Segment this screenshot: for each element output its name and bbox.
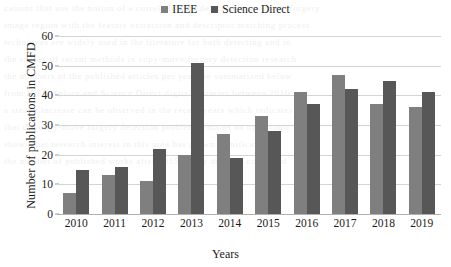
y-tick-label: 0: [24, 208, 53, 220]
square-marker-icon: [161, 6, 168, 13]
x-tick-label: 2018: [364, 217, 402, 229]
bar-science-direct: [115, 167, 128, 214]
bar-ieee: [332, 75, 345, 214]
x-tick-label: 2017: [326, 217, 364, 229]
bar-science-direct: [383, 81, 396, 215]
bar-science-direct: [422, 92, 435, 214]
bar-ieee: [255, 116, 268, 214]
legend-label-ieee: IEEE: [172, 4, 197, 16]
y-tick-label: 50: [24, 60, 53, 72]
bar-group: [95, 36, 133, 214]
x-tick-label: 2012: [134, 217, 172, 229]
gridline: [57, 214, 441, 215]
bar-science-direct: [191, 63, 204, 214]
bar-science-direct: [307, 104, 320, 214]
y-axis-ticks: 0102030405060: [24, 36, 53, 214]
x-axis-title: Years: [0, 247, 451, 262]
bar-ieee: [63, 193, 76, 214]
bar-ieee: [294, 92, 307, 214]
x-tick-label: 2011: [95, 217, 133, 229]
bar-group: [403, 36, 441, 214]
x-tick-label: 2019: [403, 217, 441, 229]
legend-item-ieee: IEEE: [161, 4, 197, 16]
bar-group: [211, 36, 249, 214]
x-tick-label: 2016: [287, 217, 325, 229]
chart-legend: IEEE Science Direct: [0, 4, 451, 16]
bar-science-direct: [76, 170, 89, 215]
bar-ieee: [370, 104, 383, 214]
bar-groups: [57, 36, 441, 214]
plot-area: [57, 36, 441, 214]
y-tick-label: 10: [24, 178, 53, 190]
bar-chart: IEEE Science Direct Number of publicatio…: [0, 0, 451, 267]
x-tick-label: 2010: [57, 217, 95, 229]
x-tick-label: 2014: [211, 217, 249, 229]
bar-group: [364, 36, 402, 214]
bar-ieee: [217, 134, 230, 214]
bar-group: [287, 36, 325, 214]
square-marker-icon: [211, 6, 218, 13]
x-tick-label: 2015: [249, 217, 287, 229]
x-axis-ticks: 2010201120122013201420152016201720182019: [57, 217, 441, 229]
bar-group: [326, 36, 364, 214]
legend-item-science-direct: Science Direct: [211, 4, 289, 16]
legend-label-science-direct: Science Direct: [222, 4, 289, 16]
bar-ieee: [409, 107, 422, 214]
bar-science-direct: [230, 158, 243, 214]
bar-ieee: [140, 181, 153, 214]
bar-ieee: [178, 155, 191, 214]
bar-science-direct: [345, 89, 358, 214]
y-tick-label: 30: [24, 119, 53, 131]
bar-science-direct: [268, 131, 281, 214]
y-tick-label: 60: [24, 30, 53, 42]
y-tick-label: 20: [24, 149, 53, 161]
bar-science-direct: [153, 149, 166, 214]
y-tick-label: 40: [24, 89, 53, 101]
bar-group: [249, 36, 287, 214]
bar-group: [134, 36, 172, 214]
bar-group: [172, 36, 210, 214]
bar-group: [57, 36, 95, 214]
x-tick-label: 2013: [172, 217, 210, 229]
bar-ieee: [102, 175, 115, 214]
